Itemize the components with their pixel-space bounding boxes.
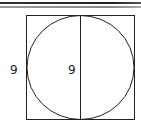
square-side-label: 9 [10, 63, 18, 77]
diameter-label: 9 [68, 63, 76, 77]
geometry-diagram: 9 9 [0, 0, 141, 129]
